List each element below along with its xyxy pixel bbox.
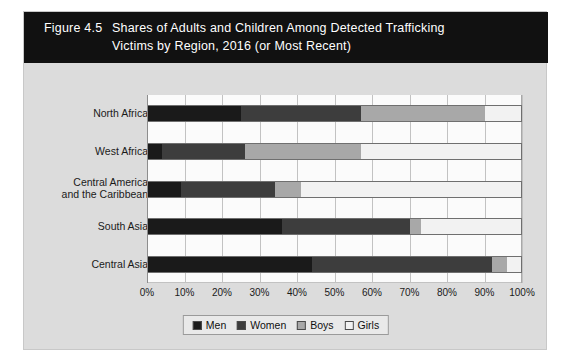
legend-swatch-girls-icon: [345, 321, 354, 330]
x-tick-label: 80%: [427, 287, 467, 298]
legend-swatch-men-icon: [193, 321, 202, 330]
legend-item-boys[interactable]: Boys: [297, 319, 333, 331]
x-tick-label: 40%: [277, 287, 317, 298]
x-tick-label: 90%: [465, 287, 505, 298]
bar-segment-women: [241, 105, 361, 122]
bar-segment-girls: [421, 218, 522, 235]
bar-segment-boys: [492, 256, 507, 273]
chart-legend: MenWomenBoysGirls: [183, 315, 389, 335]
gridline-100: [522, 95, 523, 283]
figure-card: Figure 4.5 Shares of Adults and Children…: [23, 11, 547, 350]
category-label: Central Asia: [0, 258, 148, 271]
bar-segment-women: [312, 256, 492, 273]
bar-segment-women: [181, 181, 275, 198]
legend-label: Girls: [358, 319, 380, 331]
legend-item-men[interactable]: Men: [193, 319, 226, 331]
legend-label: Women: [250, 319, 286, 331]
x-tick-label: 60%: [352, 287, 392, 298]
legend-swatch-women-icon: [237, 321, 246, 330]
bar-row: [147, 181, 521, 198]
category-label: South Asia: [0, 220, 148, 233]
bar-segment-men: [147, 181, 181, 198]
legend-label: Men: [206, 319, 226, 331]
figure-number: Figure 4.5: [44, 21, 102, 35]
bar-segment-women: [282, 218, 410, 235]
bar-segment-girls: [361, 143, 522, 160]
title-banner: Figure 4.5 Shares of Adults and Children…: [24, 12, 548, 63]
x-tick-label: 70%: [390, 287, 430, 298]
bar-row: [147, 256, 521, 273]
bar-segment-men: [147, 218, 282, 235]
chart-region: North AfricaWest AfricaCentral Americaan…: [24, 63, 548, 351]
plot-area: [147, 95, 522, 283]
bar-segment-boys: [361, 105, 485, 122]
x-tick-label: 30%: [240, 287, 280, 298]
x-tick-label: 100%: [502, 287, 542, 298]
bar-row: [147, 218, 521, 235]
bar-segment-men: [147, 105, 241, 122]
legend-swatch-boys-icon: [297, 321, 306, 330]
x-tick-label: 10%: [165, 287, 205, 298]
category-label: West Africa: [0, 145, 148, 158]
bar-segment-boys: [275, 181, 301, 198]
y-axis-line: [147, 95, 148, 283]
x-axis-line: [147, 282, 521, 283]
bar-row: [147, 143, 521, 160]
category-label-line: and the Caribbean: [0, 188, 148, 201]
figure-title-line-2: Victims by Region, 2016 (or Most Recent): [112, 39, 351, 53]
bar-segment-boys: [245, 143, 361, 160]
bar-segment-women: [162, 143, 245, 160]
bar-segment-girls: [485, 105, 523, 122]
x-tick-label: 20%: [202, 287, 242, 298]
legend-item-women[interactable]: Women: [237, 319, 286, 331]
bar-segment-girls: [507, 256, 522, 273]
figure-title-line-1: Shares of Adults and Children Among Dete…: [112, 21, 445, 35]
category-label: Central Americaand the Caribbean: [0, 176, 148, 201]
bar-segment-men: [147, 143, 162, 160]
x-tick-label: 0%: [127, 287, 167, 298]
category-label: North Africa: [0, 107, 148, 120]
bar-segment-boys: [410, 218, 421, 235]
bar-row: [147, 105, 521, 122]
x-tick-label: 50%: [315, 287, 355, 298]
legend-item-girls[interactable]: Girls: [345, 319, 380, 331]
category-label-line: Central America: [0, 176, 148, 189]
bar-segment-men: [147, 256, 312, 273]
bar-segment-girls: [301, 181, 522, 198]
legend-label: Boys: [310, 319, 333, 331]
